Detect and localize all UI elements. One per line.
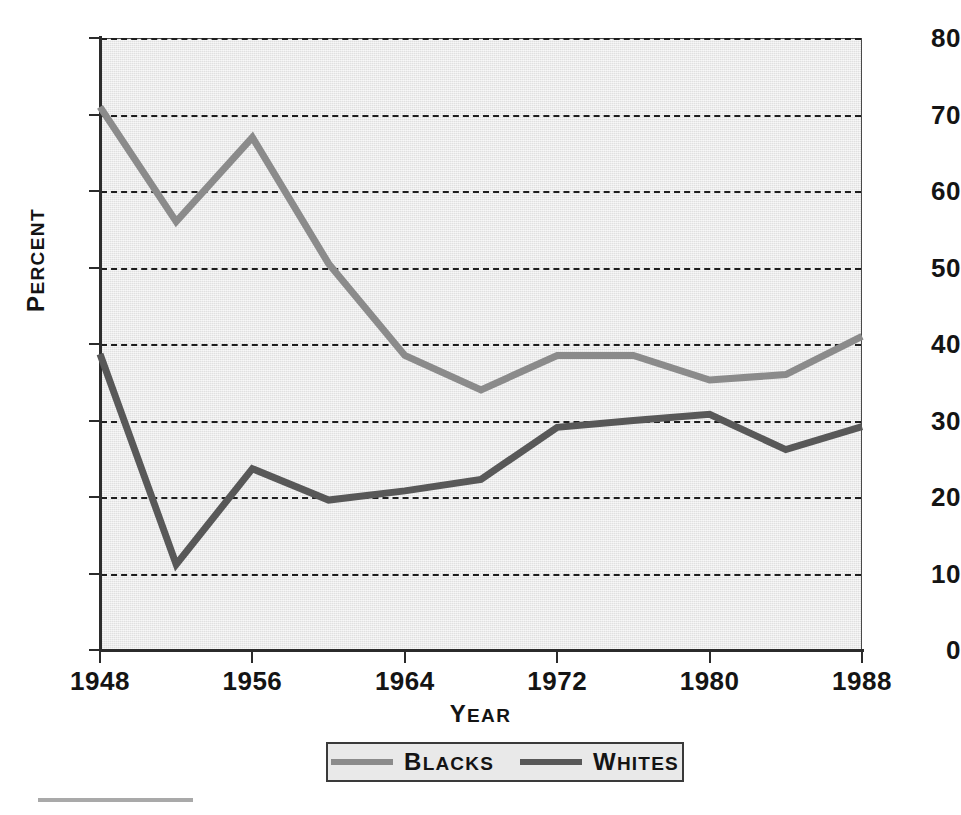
x-tick-1964 (404, 651, 406, 663)
x-tick-1988 (861, 651, 863, 663)
x-axis-title: YEAR (0, 700, 961, 728)
legend-label-blacks-rest: LACKS (423, 753, 494, 774)
y-tick-label-30: 30 (903, 408, 961, 434)
y-axis-title-initial: P (22, 295, 49, 312)
x-tick-label-1956: 1956 (192, 668, 312, 694)
x-tick-1972 (556, 651, 558, 663)
y-tick-label-0: 0 (903, 637, 961, 663)
legend: BLACKS WHITES (326, 742, 684, 782)
y-tick-label-10: 10 (903, 561, 961, 587)
legend-item-blacks[interactable]: BLACKS (331, 750, 494, 774)
gridline-y-40 (101, 344, 861, 346)
y-axis-title-rest: ERCENT (27, 208, 48, 295)
x-tick-1948 (99, 651, 101, 663)
x-axis-line (99, 649, 864, 652)
x-tick-label-1972: 1972 (497, 668, 617, 694)
legend-label-whites-initial: W (593, 748, 617, 775)
y-tick-label-80: 80 (903, 25, 961, 51)
gridline-y-80 (101, 38, 861, 40)
x-tick-1980 (709, 651, 711, 663)
y-axis-line (99, 36, 102, 652)
x-tick-label-1988: 1988 (802, 668, 922, 694)
y-tick-label-60: 60 (903, 178, 961, 204)
gridline-y-50 (101, 268, 861, 270)
y-tick-label-70: 70 (903, 102, 961, 128)
x-tick-1956 (251, 651, 253, 663)
gridline-y-70 (101, 115, 861, 117)
legend-swatch-blacks (331, 759, 393, 765)
y-axis-title: PERCENT (22, 280, 50, 312)
legend-label-blacks: BLACKS (404, 750, 494, 774)
legend-label-whites-rest: HITES (617, 753, 679, 774)
gridline-y-30 (101, 421, 861, 423)
legend-item-whites[interactable]: WHITES (520, 750, 679, 774)
x-axis-title-initial: Y (450, 700, 467, 727)
y-tick-label-50: 50 (903, 255, 961, 281)
y-tick-label-20: 20 (903, 484, 961, 510)
legend-swatch-whites (520, 759, 582, 765)
legend-label-blacks-initial: B (404, 748, 423, 775)
scan-artifact-line (38, 798, 193, 802)
gridline-y-10 (101, 574, 861, 576)
chart-figure: 01020304050607080 1948195619641972198019… (0, 0, 961, 815)
x-tick-label-1948: 1948 (40, 668, 160, 694)
x-tick-label-1964: 1964 (345, 668, 465, 694)
gridline-y-20 (101, 497, 861, 499)
x-axis-title-rest: EAR (467, 705, 511, 726)
legend-label-whites: WHITES (593, 750, 679, 774)
x-tick-label-1980: 1980 (650, 668, 770, 694)
y-tick-label-40: 40 (903, 331, 961, 357)
gridline-y-60 (101, 191, 861, 193)
